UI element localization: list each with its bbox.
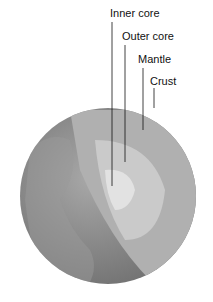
earth-diagram	[0, 0, 213, 302]
globe	[20, 108, 200, 290]
label-outer-core: Outer core	[122, 30, 174, 42]
label-inner-core: Inner core	[110, 7, 160, 19]
label-mantle: Mantle	[138, 53, 171, 65]
label-crust: Crust	[150, 75, 176, 87]
